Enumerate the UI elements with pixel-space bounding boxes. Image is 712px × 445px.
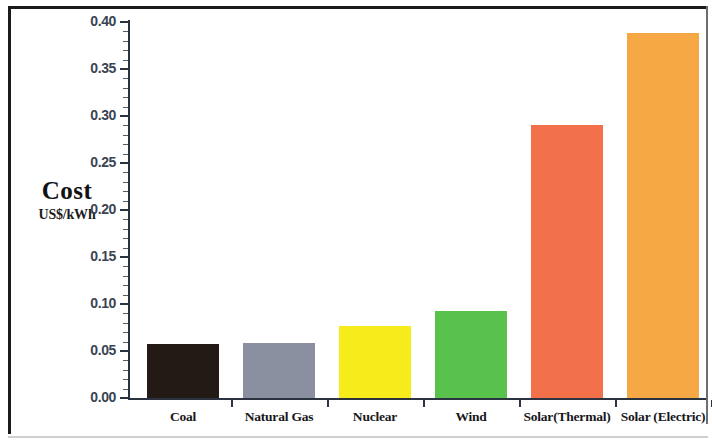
bar (147, 344, 219, 398)
chart-figure: Cost US$/kWh 0.400.350.300.250.200.150.1… (0, 0, 712, 445)
bar (339, 326, 411, 398)
x-axis-tick (423, 400, 425, 407)
y-axis-major-tick (120, 68, 128, 70)
y-axis-minor-tick (123, 323, 128, 324)
y-axis-tick-label: 0.05 (72, 342, 116, 358)
y-axis-tick-label: 0.30 (72, 107, 116, 123)
x-axis-category-label: Wind (421, 409, 521, 425)
y-axis-line (128, 20, 130, 400)
y-axis-tick-label: 0.10 (72, 295, 116, 311)
y-axis-minor-tick (123, 107, 128, 108)
bar (627, 33, 699, 398)
bar (435, 311, 507, 398)
x-axis-category-label: Solar(Thermal) (517, 409, 617, 425)
y-axis-minor-tick (123, 182, 128, 183)
y-axis-minor-tick (123, 78, 128, 79)
y-axis-tick-label: 0.00 (72, 389, 116, 405)
bar (243, 343, 315, 398)
y-axis-major-tick (120, 256, 128, 258)
y-axis-minor-tick (123, 238, 128, 239)
y-axis-minor-tick (123, 191, 128, 192)
y-axis-minor-tick (123, 276, 128, 277)
y-axis-minor-tick (123, 60, 128, 61)
y-axis-major-tick (120, 303, 128, 305)
y-axis-minor-tick (123, 219, 128, 220)
y-axis-minor-tick (123, 50, 128, 51)
y-axis-tick-label: 0.15 (72, 248, 116, 264)
x-axis-category-label: Natural Gas (229, 409, 329, 425)
bar-chart-plot-area: Cost US$/kWh 0.400.350.300.250.200.150.1… (0, 0, 712, 445)
x-axis-category-label: Coal (133, 409, 233, 425)
y-axis-minor-tick (123, 332, 128, 333)
y-axis-tick-label: 0.20 (72, 201, 116, 217)
x-axis-tick (231, 400, 233, 407)
x-axis-tick (519, 400, 521, 407)
y-axis-minor-tick (123, 135, 128, 136)
y-axis-minor-tick (123, 379, 128, 380)
y-axis-minor-tick (123, 285, 128, 286)
y-axis-tick-label: 0.25 (72, 154, 116, 170)
y-axis-major-tick (120, 209, 128, 211)
y-axis-minor-tick (123, 201, 128, 202)
x-axis-tick (327, 400, 329, 407)
x-axis-tick (615, 400, 617, 407)
y-axis-major-tick (120, 21, 128, 23)
y-axis-minor-tick (123, 41, 128, 42)
y-axis-minor-tick (123, 313, 128, 314)
y-axis-major-tick (120, 350, 128, 352)
x-axis-category-label: Solar (Electric) (613, 409, 712, 425)
y-axis-minor-tick (123, 172, 128, 173)
y-axis-minor-tick (123, 360, 128, 361)
y-axis-minor-tick (123, 88, 128, 89)
x-axis-line (128, 398, 706, 400)
y-axis-minor-tick (123, 154, 128, 155)
y-axis-tick-label: 0.35 (72, 60, 116, 76)
y-axis-major-tick (120, 162, 128, 164)
y-axis-minor-tick (123, 229, 128, 230)
y-axis-minor-tick (123, 342, 128, 343)
y-axis-minor-tick (123, 144, 128, 145)
y-axis-minor-tick (123, 266, 128, 267)
bar (531, 125, 603, 398)
y-axis-tick-label: 0.40 (72, 13, 116, 29)
y-axis-minor-tick (123, 370, 128, 371)
y-axis-minor-tick (123, 31, 128, 32)
y-axis-minor-tick (123, 389, 128, 390)
y-axis-minor-tick (123, 295, 128, 296)
y-axis-major-tick (120, 115, 128, 117)
y-axis-major-tick (120, 397, 128, 399)
y-axis-minor-tick (123, 248, 128, 249)
x-axis-category-label: Nuclear (325, 409, 425, 425)
y-axis-minor-tick (123, 97, 128, 98)
y-axis-minor-tick (123, 125, 128, 126)
